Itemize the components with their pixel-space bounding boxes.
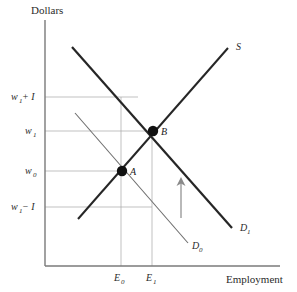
y-tick-label-w0: w 0	[25, 165, 37, 179]
y-tick-w1-plus-I-base: w	[11, 91, 18, 102]
x-tick-E1-base: E	[145, 272, 152, 283]
y-tick-label-w1-plus-I: w 1 + I	[11, 91, 35, 105]
y-tick-w0-subscript: 0	[33, 171, 37, 179]
demand-0-curve-label-subscript: 0	[199, 246, 203, 254]
equilibrium-point-A	[117, 166, 127, 176]
x-tick-label-E1: E 1	[145, 272, 157, 286]
demand-0-curve-line	[75, 113, 188, 243]
supply-demand-figure: A B S D 1 D 0 w 1 + I w 1 w 0 w 1	[0, 0, 297, 292]
vertical-gridlines	[121, 97, 152, 266]
equilibrium-point-B	[148, 126, 158, 136]
supply-curve-label: S	[236, 41, 241, 52]
demand-0-curve-label-group: D 0	[191, 240, 203, 254]
y-tick-w0-base: w	[25, 165, 32, 176]
x-axis-title: Employment	[226, 273, 283, 285]
y-tick-label-w1-minus-I: w 1 − I	[11, 201, 35, 215]
y-tick-w1-subscript: 1	[33, 131, 37, 139]
demand-1-curve-label-group: D 1	[239, 222, 251, 236]
point-B-label: B	[161, 126, 167, 137]
y-tick-w1-minus-I-suffix: − I	[22, 201, 35, 212]
y-tick-label-w1: w 1	[25, 125, 37, 139]
y-axis-title: Dollars	[31, 4, 63, 16]
x-tick-E0-subscript: 0	[121, 278, 125, 286]
point-A-label: A	[129, 166, 137, 177]
x-tick-E0-base: E	[113, 272, 120, 283]
y-tick-w1-plus-I-suffix: + I	[22, 91, 35, 102]
diagram-canvas: A B S D 1 D 0 w 1 + I w 1 w 0 w 1	[0, 0, 297, 292]
point-B-dot	[148, 126, 158, 136]
x-tick-label-E0: E 0	[113, 272, 125, 286]
point-A-dot	[117, 166, 127, 176]
curve-demand-0	[75, 113, 188, 243]
demand-1-curve-label-subscript: 1	[247, 228, 251, 236]
y-tick-w1-base: w	[25, 125, 32, 136]
demand-shift-arrow	[177, 177, 186, 218]
x-tick-E1-subscript: 1	[153, 278, 157, 286]
y-tick-w1-minus-I-base: w	[11, 201, 18, 212]
